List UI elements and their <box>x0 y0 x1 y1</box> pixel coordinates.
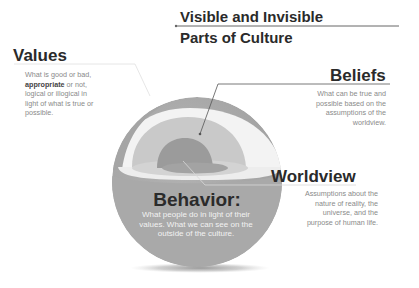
diagram-title-line1: Visible and Invisible <box>180 8 323 25</box>
worldview-heading: Worldview <box>271 167 356 187</box>
worldview-description: Assumptions about the nature of reality,… <box>300 189 378 227</box>
beliefs-leader-dot <box>199 133 202 136</box>
behavior-heading: Behavior: <box>137 189 257 211</box>
diagram-title-line2: Parts of Culture <box>180 29 293 46</box>
worldview-core-cut <box>162 163 228 174</box>
values-desc-text: What is good or bad, <box>25 70 91 79</box>
values-heading: Values <box>13 46 67 66</box>
title-underline-dot <box>175 25 177 27</box>
beliefs-heading: Beliefs <box>330 66 386 86</box>
values-description: What is good or bad, appropriate or not,… <box>25 70 97 118</box>
behavior-description: What people do in light of their values.… <box>134 210 258 239</box>
beliefs-description: What can be true and possible based on t… <box>300 89 386 127</box>
values-desc-emphasis: appropriate <box>25 80 65 89</box>
